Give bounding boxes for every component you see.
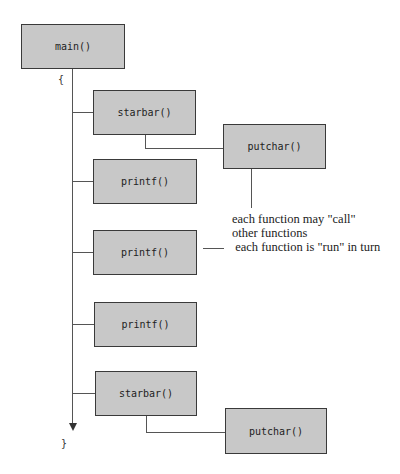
main-function-label: main() <box>55 41 91 52</box>
branch-line <box>72 252 93 253</box>
printf-box-3: printf() <box>94 302 197 347</box>
annotation-line-1: each function may "call" <box>232 212 356 226</box>
call-label: starbar() <box>119 388 173 399</box>
annotation-line-2: other functions <box>232 226 307 240</box>
printf-box-1: printf() <box>93 159 197 204</box>
call-label: printf() <box>121 319 169 330</box>
call-label: starbar() <box>117 107 171 118</box>
starbar-box-2: starbar() <box>95 371 197 416</box>
subcall-connector <box>146 432 225 433</box>
branch-line <box>72 393 95 394</box>
printf-box-2: printf() <box>93 230 197 275</box>
call-label: printf() <box>121 247 169 258</box>
branch-line <box>72 324 94 325</box>
annotation-pointer <box>251 169 252 208</box>
putchar-box-1: putchar() <box>223 124 326 169</box>
putchar-box-2: putchar() <box>225 408 327 454</box>
annotation-pointer <box>203 248 224 249</box>
subcall-label: putchar() <box>249 426 303 437</box>
main-function-box: main() <box>21 24 125 69</box>
open-brace: { <box>58 74 64 85</box>
subcall-connector <box>145 148 223 149</box>
flow-line <box>72 69 73 424</box>
subcall-connector <box>145 135 146 148</box>
annotation-line-3: each function is "run" in turn <box>232 240 380 254</box>
close-brace: } <box>61 438 67 449</box>
call-label: printf() <box>121 176 169 187</box>
subcall-connector <box>146 416 147 432</box>
branch-line <box>72 112 93 113</box>
flow-arrow-icon <box>69 423 77 431</box>
starbar-box-1: starbar() <box>93 90 196 135</box>
subcall-label: putchar() <box>247 141 301 152</box>
branch-line <box>72 181 93 182</box>
